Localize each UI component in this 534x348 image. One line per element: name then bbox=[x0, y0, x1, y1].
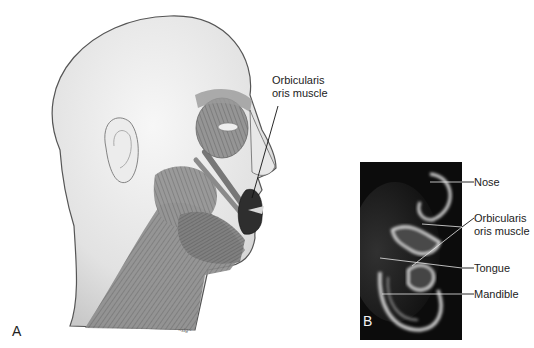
mri-lower-lip bbox=[408, 265, 434, 290]
panel-letter-b: B bbox=[363, 313, 372, 329]
label-line1: Orbicularis bbox=[474, 212, 530, 225]
mri-image: B bbox=[360, 162, 462, 340]
panel-letter-a: A bbox=[12, 323, 21, 339]
mri-label-leaders bbox=[462, 160, 474, 310]
label-tongue: Tongue bbox=[474, 262, 510, 275]
label-orbicularis-oris-a: Orbicularis oris muscle bbox=[272, 74, 328, 100]
label-line1: Orbicularis bbox=[272, 74, 328, 87]
label-line2: oris muscle bbox=[272, 87, 328, 100]
label-line2: oris muscle bbox=[474, 225, 530, 238]
artist-signature: ~sig~ bbox=[178, 327, 192, 333]
label-orbicularis-oris-b: Orbicularis oris muscle bbox=[474, 212, 530, 238]
label-mandible: Mandible bbox=[474, 288, 519, 301]
mri-graphic bbox=[360, 162, 462, 340]
nose bbox=[250, 110, 275, 175]
label-nose: Nose bbox=[474, 176, 500, 189]
